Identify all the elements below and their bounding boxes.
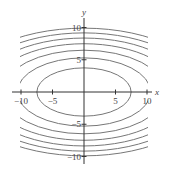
x-axis-label: x (154, 87, 159, 97)
y-tick-label: 10 (72, 23, 82, 33)
y-axis-label: y (81, 7, 86, 17)
y-tick-label: −5 (71, 119, 81, 129)
x-tick-label: −10 (14, 96, 29, 106)
x-tick-label: 10 (143, 96, 153, 106)
x-tick-label: −5 (48, 96, 58, 106)
y-tick-label: −10 (67, 152, 82, 162)
y-tick-label: 5 (77, 55, 82, 65)
contour-plot: −10−5510−10−5510 x y (0, 0, 170, 174)
x-tick-label: 5 (113, 96, 118, 106)
